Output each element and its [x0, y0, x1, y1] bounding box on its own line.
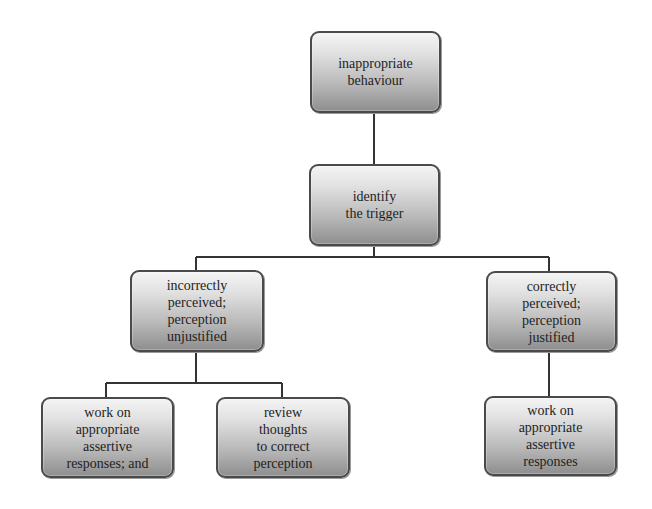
node-text-line: appropriate	[519, 419, 583, 436]
node-text-line: thoughts	[259, 421, 307, 438]
node-text-line: review	[264, 404, 302, 421]
node-text-line: perception	[522, 312, 581, 329]
node-text-line: assertive	[526, 436, 575, 453]
node-text-line: perception	[167, 311, 226, 328]
node-review-thoughts: review thoughts to correct perception	[216, 397, 350, 478]
node-text-line: incorrectly	[167, 277, 228, 294]
node-text-line: to correct	[256, 438, 309, 455]
node-text-line: the trigger	[346, 205, 404, 222]
node-work-assertive: work on appropriate assertive responses	[484, 396, 617, 476]
node-correctly-perceived: correctly perceived; perception justifie…	[486, 271, 617, 352]
node-inappropriate-behaviour: inappropriate behaviour	[310, 31, 441, 113]
node-text-line: responses	[523, 453, 577, 470]
node-text-line: identify	[353, 188, 397, 205]
node-text-line: work on	[527, 402, 573, 419]
node-text-line: behaviour	[348, 72, 404, 89]
node-text-line: work on	[84, 404, 130, 421]
node-text-line: inappropriate	[338, 55, 413, 72]
node-text-line: appropriate	[76, 421, 140, 438]
diagram-canvas: inappropriate behaviour identify the tri…	[0, 0, 652, 509]
node-text-line: correctly	[527, 278, 577, 295]
node-text-line: perceived;	[168, 294, 226, 311]
node-work-assertive-and: work on appropriate assertive responses;…	[41, 397, 174, 478]
node-text-line: assertive	[83, 438, 132, 455]
node-text-line: perception	[253, 455, 312, 472]
node-text-line: responses; and	[66, 455, 148, 472]
node-text-line: justified	[529, 329, 575, 346]
node-text-line: perceived;	[522, 295, 580, 312]
node-text-line: unjustified	[167, 328, 227, 345]
node-identify-trigger: identify the trigger	[309, 164, 440, 246]
node-incorrectly-perceived: incorrectly perceived; perception unjust…	[130, 270, 264, 352]
